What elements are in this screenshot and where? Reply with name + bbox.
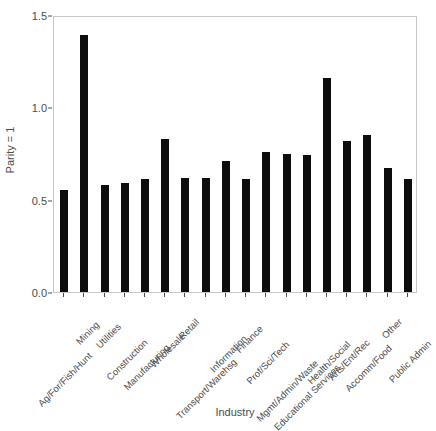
x-tick-mark [144,293,145,297]
bar [343,141,351,292]
x-tick-label-text: Retail [177,317,201,341]
bar [80,35,88,292]
y-tick-mark [48,16,52,17]
x-tick-mark [164,293,165,297]
x-tick-label-text: Ag/For/Fish/Hunt [36,351,93,408]
x-axis-title: Industry [53,406,417,418]
x-tick-mark [387,293,388,297]
x-tick-mark [205,293,206,297]
bar [404,179,412,292]
x-tick-mark [225,293,226,297]
x-tick-mark [346,293,347,297]
y-tick-mark [48,108,52,109]
bar [121,183,129,292]
x-tick-mark [124,293,125,297]
y-axis-title-text: Parity = 1 [4,127,16,174]
x-tick-label: Utilities [116,300,144,328]
x-tick-label: Retail [195,300,219,324]
bar [242,179,250,292]
x-tick-mark [104,293,105,297]
x-tick-mark [184,293,185,297]
bar [141,179,149,292]
bar [101,185,109,292]
bar [181,178,189,292]
y-tick-mark [48,293,52,294]
bar [283,154,291,293]
x-tick-mark [306,293,307,297]
y-tick-mark [48,200,52,201]
bar [323,78,331,292]
x-tick-mark [366,293,367,297]
x-tick-mark [245,293,246,297]
bar [202,178,210,292]
x-tick-mark [326,293,327,297]
bar [303,155,311,292]
bar [262,152,270,292]
bar [222,161,230,292]
x-axis-ticks: Ag/For/Fish/HuntMiningUtilitiesConstruct… [53,293,417,413]
bar [363,135,371,292]
x-tick-mark [63,293,64,297]
bar [384,168,392,292]
plot-panel [53,16,417,293]
bar [60,190,68,292]
bars-container [54,17,416,292]
bar [161,139,169,292]
x-tick-mark [83,293,84,297]
y-axis-title: Parity = 1 [0,0,20,300]
x-tick-mark [286,293,287,297]
x-tick-mark [407,293,408,297]
x-tick-mark [265,293,266,297]
